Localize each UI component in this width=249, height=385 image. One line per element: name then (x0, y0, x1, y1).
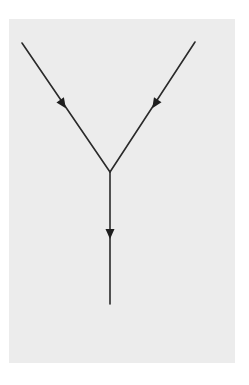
arrow-down-icon (106, 229, 115, 239)
arrow-down-left-icon (148, 97, 161, 110)
incoming-left-line (22, 43, 110, 172)
vertex-diagram (0, 0, 249, 385)
